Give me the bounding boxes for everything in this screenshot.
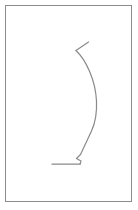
picture-frame-border [6,6,132,202]
line-drawing-svg [0,0,138,210]
drawing-canvas [0,0,138,210]
